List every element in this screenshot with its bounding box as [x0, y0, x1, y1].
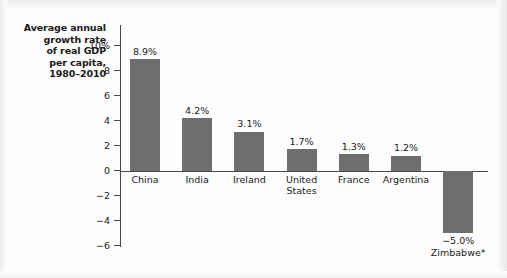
- y-tick-mark: [114, 145, 120, 146]
- y-tick-label: −6: [82, 240, 110, 251]
- y-tick-mark: [114, 220, 120, 221]
- y-tick-mark: [114, 245, 120, 246]
- y-tick-mark: [114, 95, 120, 96]
- y-tick-label: 6: [82, 90, 110, 101]
- y-tick-label: 4: [82, 115, 110, 126]
- y-tick-label: 8: [82, 65, 110, 76]
- bar: [443, 171, 473, 234]
- bar: [130, 59, 160, 170]
- y-tick-mark: [114, 70, 120, 71]
- x-category-label-line: Zimbabwe*: [425, 247, 491, 258]
- bar: [182, 118, 212, 171]
- chart-screenshot: Average annualgrowth rateof real GDPper …: [0, 0, 507, 278]
- plot-area: 10%86420−2−4−6 8.9%China4.2%India3.1%Ire…: [0, 0, 507, 278]
- y-axis-line: [120, 25, 121, 247]
- bar-value-label: 4.2%: [166, 105, 228, 116]
- y-tick-mark: [114, 195, 120, 196]
- bar-value-label: 8.9%: [114, 46, 176, 57]
- y-tick-mark: [114, 170, 120, 171]
- x-category-label-line: States: [269, 185, 335, 196]
- x-category-label-line: Argentina: [373, 174, 439, 185]
- bar: [234, 132, 264, 171]
- y-tick-label: −2: [82, 190, 110, 201]
- y-tick-label: −4: [82, 215, 110, 226]
- bar: [391, 156, 421, 171]
- bar: [287, 149, 317, 170]
- x-axis-line: [120, 171, 488, 172]
- x-category-label: Argentina: [373, 174, 439, 185]
- y-tick-label: 10%: [82, 40, 110, 51]
- y-tick-label: 0: [82, 165, 110, 176]
- bar-value-label: 1.2%: [375, 142, 437, 153]
- x-category-label: Zimbabwe*: [425, 247, 491, 258]
- bar-value-label: −5.0%: [427, 235, 489, 246]
- y-tick-label: 2: [82, 140, 110, 151]
- bar: [339, 154, 369, 170]
- y-tick-mark: [114, 120, 120, 121]
- bar-value-label: 3.1%: [218, 118, 280, 129]
